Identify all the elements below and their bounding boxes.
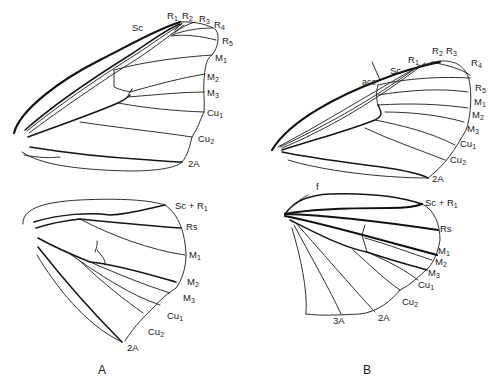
label-a-fw-m1: M1: [215, 53, 227, 64]
label-a-fw-2a: 2A: [188, 159, 200, 169]
label-a-hw-2a: 2A: [127, 343, 139, 353]
label-a-fw-r1: R1: [167, 11, 178, 22]
label-a-fw-sc: Sc: [132, 23, 143, 33]
label-a-fw-r4: R4: [214, 20, 225, 31]
label-b-hw-m2: M2: [435, 257, 447, 268]
label-b-hw-cu1: Cu1: [418, 280, 434, 291]
label-a-fw-cu1: Cu1: [207, 108, 223, 119]
label-a-hw-m2: M2: [187, 277, 199, 288]
label-a-hw-rs: Rs: [186, 222, 198, 232]
panel-label-a: A: [98, 363, 106, 377]
label-b-fw-m1: M1: [474, 97, 486, 108]
label-a-hw-sc-r1: Sc + R1: [175, 201, 208, 212]
label-b-fw-r2: R2: [432, 46, 443, 57]
label-b-hw-m3: M3: [428, 268, 440, 279]
label-a-fw-r2: R2: [182, 11, 193, 22]
label-a-fw-r5: R5: [222, 36, 233, 47]
label-b-hw-f: f: [316, 182, 319, 192]
label-a-hw-cu2: Cu2: [148, 327, 164, 338]
label-a-hw-cu1: Cu1: [167, 311, 183, 322]
label-b-fw-cu1: Cu1: [460, 139, 476, 150]
label-b-hw-2a: 2A: [378, 313, 390, 323]
label-b-fw-2a: 2A: [432, 174, 444, 184]
label-b-fw-sc: Sc: [390, 66, 401, 76]
panel-label-b: B: [363, 363, 371, 377]
label-a-fw-cu2: Cu2: [198, 134, 214, 145]
label-b-fw-r1: R1: [408, 55, 419, 66]
label-b-fw-cu2: Cu2: [450, 155, 466, 166]
label-a-hw-m1: M1: [189, 250, 201, 261]
label-b-hw-sc-r1: Sc + R1: [425, 198, 458, 209]
label-b-hw-3a: 3A: [333, 316, 345, 326]
label-b-fw-m3: M3: [467, 124, 479, 135]
panel-a-hindwing: [23, 199, 186, 342]
label-a-fw-m3: M3: [207, 88, 219, 99]
panel-a-forewing: [14, 22, 218, 171]
label-b-hw-cu2: Cu2: [402, 297, 418, 308]
label-a-hw-m3: M3: [183, 293, 195, 304]
label-b-fw-r5: R5: [475, 83, 486, 94]
label-b-fw-acc: acc: [362, 78, 376, 87]
label-b-fw-m2: M2: [472, 110, 484, 121]
label-b-fw-r4: R4: [471, 58, 482, 69]
label-b-hw-rs: Rs: [440, 224, 452, 234]
label-a-fw-m2: M2: [207, 72, 219, 83]
label-a-fw-r3: R3: [199, 14, 210, 25]
label-b-fw-r3: R3: [446, 46, 457, 57]
